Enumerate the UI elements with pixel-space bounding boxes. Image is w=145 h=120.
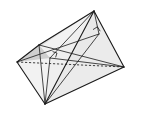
geometry-figure: D H E B C V A	[0, 0, 145, 120]
geometry-canvas: D H E B C V A	[0, 0, 145, 120]
